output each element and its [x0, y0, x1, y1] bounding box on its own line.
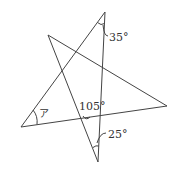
label-105: 105° — [79, 101, 106, 112]
arc-left-a — [33, 110, 37, 125]
line-upperleft-to-right — [48, 35, 167, 106]
line-top-to-bottom — [98, 12, 105, 162]
line-upperleft-to-bottom — [48, 35, 98, 162]
arc-top-35 — [98, 23, 105, 25]
arc-bottom-25 — [93, 146, 99, 148]
leader-25 — [97, 133, 106, 143]
star-figure — [0, 0, 180, 172]
label-25: 25° — [108, 129, 128, 140]
label-a: ア — [39, 109, 49, 119]
label-35: 35° — [109, 32, 129, 43]
diagram-canvas: 35° ア 105° 25° — [0, 0, 180, 172]
